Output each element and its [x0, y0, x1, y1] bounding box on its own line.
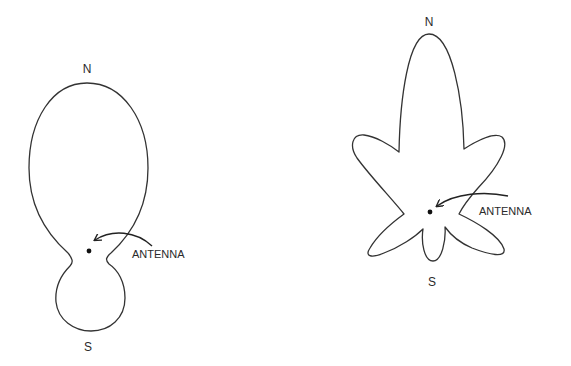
right-antenna-dot — [428, 210, 433, 215]
right-pattern-diagram: N ANTENNA S — [353, 15, 533, 289]
left-south-label: S — [84, 340, 92, 354]
left-antenna-label: ANTENNA — [132, 248, 185, 260]
left-main-lobe — [29, 83, 148, 253]
left-antenna-dot — [87, 249, 92, 254]
radiation-pattern-figure: N ANTENNA S N ANTENNA S — [0, 0, 571, 366]
right-antenna-label: ANTENNA — [479, 205, 532, 217]
left-pattern-diagram: N ANTENNA S — [29, 62, 185, 354]
left-north-label: N — [83, 62, 92, 76]
right-lobe-outline — [353, 34, 505, 261]
left-back-lobe — [56, 253, 125, 331]
right-north-label: N — [425, 15, 434, 29]
right-south-label: S — [428, 275, 436, 289]
